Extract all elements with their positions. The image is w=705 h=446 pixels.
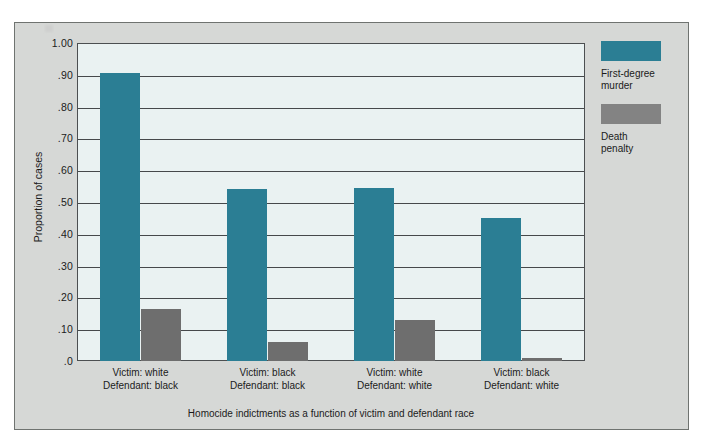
y-axis-tick-label: .0: [27, 355, 73, 367]
gridline: [78, 203, 584, 204]
gridline: [78, 267, 584, 268]
x-axis-label-line: Victim: black: [458, 367, 585, 380]
x-axis-category-label: Victim: whiteDefendant: black: [77, 367, 204, 392]
x-axis-category-labels: Victim: whiteDefendant: blackVictim: bla…: [77, 367, 585, 401]
x-axis-category-label: Victim: blackDefendant: black: [204, 367, 331, 392]
gridline: [78, 76, 584, 77]
x-axis-label-line: Defendant: white: [331, 380, 458, 393]
x-axis-category-label: Victim: blackDefendant: white: [458, 367, 585, 392]
scan-artifact: [45, 25, 53, 32]
y-axis-tick-label: .20: [27, 291, 73, 303]
legend-label: Death: [601, 131, 685, 143]
gridline: [78, 330, 584, 331]
x-axis-category-label: Victim: whiteDefendant: white: [331, 367, 458, 392]
chart-legend: First-degreemurderDeathpenalty: [601, 41, 685, 167]
x-axis-label-line: Defendant: black: [77, 380, 204, 393]
y-axis-tick-label: .40: [27, 228, 73, 240]
y-axis-tick-label: .80: [27, 101, 73, 113]
gridline: [78, 139, 584, 140]
x-axis-label-line: Victim: white: [331, 367, 458, 380]
legend-label: First-degree: [601, 68, 685, 80]
y-axis-tick-label: .50: [27, 196, 73, 208]
plot-area: [77, 43, 585, 361]
x-axis-label-line: Victim: black: [204, 367, 331, 380]
legend-swatch: [601, 41, 661, 61]
y-axis-tick-label: .90: [27, 69, 73, 81]
legend-label: penalty: [601, 143, 685, 155]
x-axis-label-line: Defendant: white: [458, 380, 585, 393]
gridline: [78, 298, 584, 299]
y-axis-tick-label: .60: [27, 164, 73, 176]
gridline: [78, 235, 584, 236]
x-axis-label-line: Defendant: black: [204, 380, 331, 393]
x-axis-label-line: Victim: white: [77, 367, 204, 380]
y-axis-tick-label: .30: [27, 260, 73, 272]
gridline: [78, 171, 584, 172]
legend-swatch: [601, 104, 661, 124]
legend-label: murder: [601, 80, 685, 92]
legend-entry-first-degree-murder: First-degreemurder: [601, 41, 685, 92]
legend-entry-death-penalty: Deathpenalty: [601, 104, 685, 155]
figure-panel: Proportion of cases 1.00.90.80.70.60.50.…: [14, 22, 689, 430]
y-axis-tick-label: .10: [27, 323, 73, 335]
y-axis-tick-labels: 1.00.90.80.70.60.50.40.30.20.10.0: [21, 43, 73, 361]
gridline: [78, 108, 584, 109]
y-axis-tick-label: .70: [27, 132, 73, 144]
x-axis-caption: Homocide indictments as a function of vi…: [77, 408, 585, 419]
y-axis-tick-label: 1.00: [27, 37, 73, 49]
